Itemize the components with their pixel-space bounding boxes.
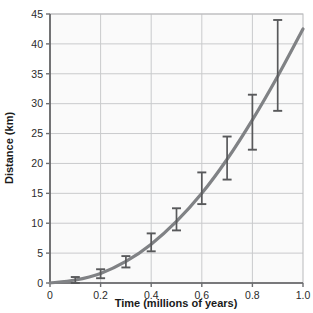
tick-label-y: 0 [37, 277, 43, 289]
tick-label-y: 40 [31, 38, 43, 50]
tick-label-x: 0.8 [245, 289, 260, 301]
tick-label-y: 20 [31, 157, 43, 169]
tick-label-x: 1.0 [296, 289, 311, 301]
tick-label-y: 35 [31, 68, 43, 80]
plot-area-background [50, 14, 303, 283]
distance-vs-time-chart: 051015202530354045 00.20.40.60.81.0 Time… [0, 0, 313, 313]
y-axis-title: Distance (km) [3, 112, 15, 184]
chart-figure: 051015202530354045 00.20.40.60.81.0 Time… [0, 0, 313, 313]
tick-label-y: 10 [31, 217, 43, 229]
tick-label-y: 45 [31, 8, 43, 20]
tick-label-x: 0.2 [93, 289, 108, 301]
tick-label-y: 15 [31, 187, 43, 199]
tick-label-y: 5 [37, 247, 43, 259]
tick-label-y: 30 [31, 97, 43, 109]
tick-label-x: 0 [47, 289, 53, 301]
tick-label-y: 25 [31, 127, 43, 139]
x-axis-title: Time (millions of years) [115, 297, 238, 309]
